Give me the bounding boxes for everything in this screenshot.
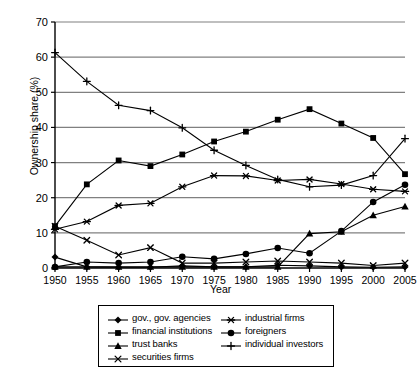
data-point [147,259,154,266]
legend-item: trust banks [107,337,220,350]
data-point [307,106,313,112]
legend-item: gov., gov. agencies [107,311,220,324]
data-point [52,254,59,261]
legend-item-label: securities firms [132,352,194,362]
x-axis-tick-label: 1970 [171,274,195,286]
legend-item: industrial firms [220,311,327,324]
chart-svg: 0102030405060701950195519601965197019751… [0,0,420,300]
data-point [179,184,186,189]
legend-item-label: foreigners [245,326,286,336]
series-securities-firms [52,223,408,268]
legend-item-label: financial institutions [132,326,212,336]
chart-root: 0102030405060701950195519601965197019751… [0,0,420,376]
x-axis-tick-label: 1950 [43,274,67,286]
series-individual-investors [52,49,409,190]
data-point [274,176,281,183]
x-axis-tick-label: 1980 [234,274,258,286]
data-point [52,264,59,271]
data-point [179,124,186,131]
cross-x-marker-icon [107,351,129,363]
diamond-marker-icon [107,312,129,324]
plus-marker-icon [220,338,242,350]
data-point [274,245,281,252]
series-line [55,226,405,265]
data-point [402,171,408,177]
data-point [210,173,217,178]
asterisk-marker-icon [220,312,242,324]
data-point [370,135,376,141]
legend-item-label: trust banks [132,339,177,349]
series-financial-institutions [52,106,408,229]
data-point [338,228,345,235]
data-point [401,203,408,210]
triangle-marker-icon [107,338,129,350]
data-point [115,260,122,267]
data-point [370,199,377,206]
series-line [55,53,405,187]
data-point [402,263,409,270]
data-point [338,182,345,189]
x-axis-tick-label: 2005 [393,274,417,286]
square-marker-icon [107,325,129,337]
x-axis-tick-label: 1990 [298,274,322,286]
legend-column-right: industrial firmsforeignersindividual inv… [220,311,327,363]
series-industrial-firms [51,173,408,232]
data-point [306,250,313,257]
x-axis-tick-label: 1960 [107,274,131,286]
data-point [179,253,186,260]
data-point [211,147,218,154]
data-point [84,237,90,243]
data-point [147,107,154,114]
y-axis-tick-label: 10 [36,227,48,239]
data-point [402,181,409,188]
data-point [84,259,91,266]
data-point [179,152,185,158]
x-axis-label: Year [210,283,231,295]
legend-item: individual investors [220,337,327,350]
data-point [211,256,218,263]
data-point [115,203,122,208]
data-point [338,263,345,270]
series-line [55,109,405,226]
data-point [148,163,154,169]
data-point [242,173,249,178]
data-point [243,251,250,258]
data-point [306,177,313,182]
data-point [83,219,90,224]
legend-item: foreigners [220,324,327,337]
legend-item: financial institutions [107,324,220,337]
data-point [243,129,249,135]
x-axis-tick-label: 1985 [266,274,290,286]
series-foreigners [52,181,409,270]
y-axis-tick-label: 0 [42,262,48,274]
data-point [116,158,122,164]
x-axis-tick-label: 1995 [330,274,354,286]
data-point [147,201,154,206]
x-axis-tick-label: 1955 [75,274,99,286]
data-point [275,117,281,123]
ownership-share-line-chart: 0102030405060701950195519601965197019751… [0,0,420,300]
y-axis-tick-label: 70 [36,16,48,28]
data-point [401,189,408,194]
series-line [55,207,405,267]
x-axis-tick-label: 2000 [362,274,386,286]
data-point [370,187,377,192]
legend-item-label: industrial firms [245,313,305,323]
data-point [211,139,217,145]
y-axis-label: Ownership share (%) [28,46,40,206]
legend-item-label: gov., gov. agencies [132,313,211,323]
x-axis-tick-label: 1965 [139,274,163,286]
legend-item: securities firms [107,350,220,363]
data-point [306,183,313,190]
legend-column-left: gov., gov. agenciesfinancial institution… [107,311,220,363]
data-point [338,121,344,127]
legend-item-label: individual investors [245,339,323,349]
circle-marker-icon [220,325,242,337]
data-point [84,181,90,187]
chart-legend: gov., gov. agenciesfinancial institution… [98,305,334,367]
